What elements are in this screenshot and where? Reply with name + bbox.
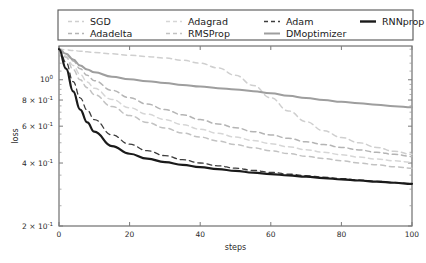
chart-screenshot: SGDAdagradAdamRNNpropAdadeltaRMSPropDMop… bbox=[0, 0, 426, 263]
y-axis-label: loss bbox=[11, 128, 20, 143]
y-tick-label: 8 × 10-1 bbox=[22, 95, 53, 105]
x-tick-label: 40 bbox=[195, 230, 205, 239]
legend-label-rmsprop: RMSProp bbox=[188, 28, 230, 39]
legend-label-adam: Adam bbox=[286, 16, 313, 27]
y-tick-label: 100 bbox=[40, 74, 54, 84]
x-tick-label: 80 bbox=[337, 230, 347, 239]
legend-label-dmoptimizer: DMoptimizer bbox=[286, 28, 346, 39]
loss-vs-steps-chart: SGDAdagradAdamRNNpropAdadeltaRMSPropDMop… bbox=[0, 0, 426, 263]
x-tick-label: 0 bbox=[57, 230, 62, 239]
y-tick-label: 6 × 10-1 bbox=[22, 121, 53, 131]
series-line-sgd bbox=[59, 49, 412, 154]
x-tick-label: 100 bbox=[405, 230, 420, 239]
chart-curves bbox=[59, 49, 412, 184]
series-line-rnnprop bbox=[59, 49, 412, 184]
legend-label-rnnprop: RNNprop bbox=[382, 16, 424, 27]
legend-label-adagrad: Adagrad bbox=[188, 16, 228, 27]
y-tick-label: 4 × 10-1 bbox=[22, 158, 53, 168]
plot-frame bbox=[59, 46, 412, 226]
x-tick-label: 20 bbox=[125, 230, 135, 239]
chart-legend: SGDAdagradAdamRNNpropAdadeltaRMSPropDMop… bbox=[58, 10, 424, 40]
x-axis-label: steps bbox=[225, 243, 246, 252]
series-line-dmoptimizer bbox=[59, 49, 412, 107]
x-tick-label: 60 bbox=[266, 230, 276, 239]
legend-label-sgd: SGD bbox=[90, 16, 111, 27]
y-tick-label: 2 × 10-1 bbox=[22, 221, 53, 231]
legend-label-adadelta: Adadelta bbox=[90, 28, 132, 39]
